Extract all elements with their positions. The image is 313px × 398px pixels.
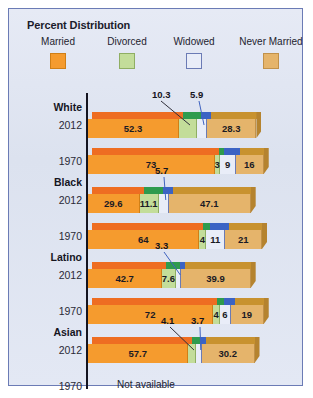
legend-label-never_married: Never Married <box>228 36 313 47</box>
bar-segment-never-married: 28.3 <box>207 119 256 138</box>
bar-top-segment-married <box>92 187 144 194</box>
legend-item-divorced: Divorced <box>95 36 159 69</box>
chart-inner: Percent Distribution MarriedDivorcedWido… <box>9 9 302 385</box>
bar-segment-married: 42.7 <box>88 269 162 288</box>
bar-right-face <box>264 148 269 174</box>
bar-top-segment-divorced <box>203 223 210 230</box>
callout-value: 10.3 <box>152 89 171 100</box>
bar-top-segment-widowed <box>224 298 234 305</box>
bar-segment-value: 30.2 <box>218 349 237 359</box>
chart-legend: MarriedDivorcedWidowedNever Married <box>23 36 293 82</box>
bar-segment-value: 3 <box>214 160 219 170</box>
bar-front-face: 6441121 <box>88 230 262 249</box>
bar-segment-value: 11 <box>210 235 220 245</box>
year-label-latino-2012: 2012 <box>12 269 82 281</box>
bar-top-segment-married <box>92 262 166 269</box>
bar-segment-value: 9 <box>225 160 230 170</box>
legend-item-never_married: Never Married <box>228 36 313 69</box>
bar-top-face <box>92 298 268 305</box>
bar-segment-value: 19 <box>241 310 252 320</box>
bar-segment-value: 6 <box>222 310 227 320</box>
bar-segment-never-married: 47.1 <box>169 194 251 213</box>
bar-top-segment-widowed <box>210 223 229 230</box>
bar-right-face <box>251 262 256 288</box>
bar-segment-value: 57.7 <box>128 349 147 359</box>
bar-segment-never-married: 21 <box>225 230 262 249</box>
legend-swatch-widowed <box>186 53 202 69</box>
bar-segment-married: 29.6 <box>88 194 140 213</box>
bar-right-face <box>255 337 260 363</box>
bar-segment-widowed: 9 <box>220 155 236 174</box>
bar-segment-value: 28.3 <box>222 124 241 134</box>
bar-top-face <box>92 187 255 194</box>
bar-right-face <box>251 187 256 213</box>
callout-leader-line <box>198 327 203 350</box>
bar-right-face <box>264 298 269 324</box>
bar-top-segment-married <box>92 223 203 230</box>
year-label-latino-1970: 1970 <box>12 305 82 317</box>
bar-segment-never-married: 19 <box>231 305 264 324</box>
bar-white-1970: 733916 <box>88 148 269 174</box>
bar-segment-married: 64 <box>88 230 199 249</box>
bar-top-segment-widowed <box>224 148 240 155</box>
bar-top-segment-divorced <box>144 187 163 194</box>
legend-swatch-married <box>50 53 66 69</box>
bar-top-segment-never-married <box>211 112 260 119</box>
legend-swatch-never_married <box>263 53 279 69</box>
callout-value: 3.7 <box>191 315 204 326</box>
bar-top-segment-never-married <box>240 148 268 155</box>
bar-segment-never-married: 39.9 <box>181 269 250 288</box>
callout-leader-line <box>159 101 192 125</box>
year-label-asian-2012: 2012 <box>12 344 82 356</box>
legend-label-married: Married <box>27 36 89 47</box>
bar-segment-divorced: 11.1 <box>140 194 159 213</box>
legend-label-divorced: Divorced <box>95 36 159 47</box>
bar-segment-value: 39.9 <box>206 274 225 284</box>
bar-segment-value: 29.6 <box>104 199 123 209</box>
bar-top-segment-never-married <box>185 262 254 269</box>
bar-top-segment-never-married <box>235 298 268 305</box>
group-label-black: Black <box>12 176 82 188</box>
callout-leader-line <box>197 101 206 125</box>
bar-front-face: 733916 <box>88 155 264 174</box>
not-available-text: Not available <box>117 379 175 390</box>
year-label-black-1970: 1970 <box>12 230 82 242</box>
bar-top-segment-never-married <box>173 187 255 194</box>
chart-figure: Percent Distribution MarriedDivorcedWido… <box>8 8 303 386</box>
bar-front-face: 29.611.147.1 <box>88 194 251 213</box>
bar-segment-value: 47.1 <box>200 199 219 209</box>
bar-top-segment-divorced <box>217 298 224 305</box>
bar-segment-value: 21 <box>238 235 249 245</box>
bar-segment-divorced: 4 <box>199 230 206 249</box>
bar-black-2012: 29.611.147.1 <box>88 187 256 213</box>
bar-segment-divorced: 4 <box>213 305 220 324</box>
callout-value: 4.1 <box>161 315 174 326</box>
bar-segment-value: 7.6 <box>162 274 175 284</box>
bar-segment-value: 64 <box>138 235 149 245</box>
bar-top-segment-married <box>92 298 217 305</box>
bar-segment-value: 42.7 <box>115 274 134 284</box>
callout-leader-line <box>162 252 182 275</box>
year-label-white-2012: 2012 <box>12 119 82 131</box>
group-label-white: White <box>12 101 82 113</box>
legend-label-widowed: Widowed <box>163 36 225 47</box>
bar-segment-never-married: 30.2 <box>202 344 255 363</box>
year-label-asian-1970: 1970 <box>12 380 82 392</box>
chart-title: Percent Distribution <box>27 19 130 31</box>
callout-leader-line <box>162 177 168 200</box>
group-label-latino: Latino <box>12 251 82 263</box>
bar-front-face: 724619 <box>88 305 264 324</box>
bar-segment-widowed: 6 <box>220 305 230 324</box>
bar-segment-widowed: 11 <box>206 230 225 249</box>
year-label-black-2012: 2012 <box>12 194 82 206</box>
legend-item-married: Married <box>27 36 89 69</box>
callout-value: 5.9 <box>190 89 203 100</box>
bar-top-segment-never-married <box>229 223 266 230</box>
bar-top-face <box>92 223 266 230</box>
year-label-white-1970: 1970 <box>12 155 82 167</box>
callout-value: 5.7 <box>155 165 168 176</box>
callout-leader-line <box>168 327 196 350</box>
bar-latino-1970: 724619 <box>88 298 269 324</box>
bar-segment-value: 16 <box>244 160 255 170</box>
bar-segment-value: 72 <box>145 310 156 320</box>
